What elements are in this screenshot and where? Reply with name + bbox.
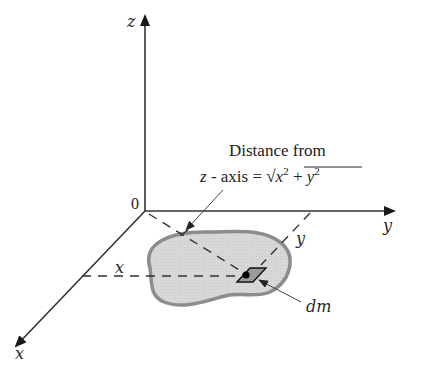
origin-label: 0	[131, 195, 139, 212]
dm-label: dm	[306, 297, 331, 316]
annotation-line2: z - axis = √x2 + y2	[199, 165, 320, 186]
annotation-axis-text: - axis =	[207, 167, 267, 186]
formula-y: y	[305, 167, 315, 186]
z-axis-label: z	[126, 12, 136, 31]
x-axis-label: x	[15, 344, 24, 363]
y-distance-label: y	[295, 229, 306, 248]
x-axis	[16, 211, 145, 346]
mass-body	[149, 231, 290, 305]
diagram-canvas: z y x 0 x y dm Distance from z - axis = …	[0, 0, 428, 369]
annotation-leader-arrow	[186, 190, 223, 230]
formula-plus: +	[289, 167, 307, 186]
annotation-line1: Distance from	[229, 141, 326, 160]
mass-element-dot	[242, 271, 249, 278]
x-distance-label: x	[115, 258, 124, 277]
y-axis-label: y	[382, 216, 393, 235]
